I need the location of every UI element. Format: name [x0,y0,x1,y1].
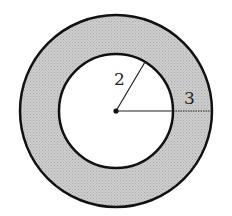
outer-width-label: 3 [184,88,195,108]
center-point [113,108,118,113]
annulus-diagram: 2 3 [0,0,232,216]
inner-radius-label: 2 [114,69,125,89]
